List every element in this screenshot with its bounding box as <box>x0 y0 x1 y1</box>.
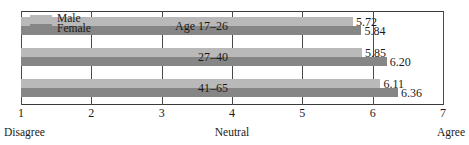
bar-male-group-2 <box>21 48 362 57</box>
tick-label-2: 2 <box>88 107 94 119</box>
category-label-2: 27–40 <box>198 51 228 63</box>
tick-label-6: 6 <box>370 107 376 119</box>
legend-label-female: Female <box>57 24 91 34</box>
tick-label-3: 3 <box>159 107 165 119</box>
category-label-3: 41–65 <box>198 82 228 94</box>
legend-swatch-male <box>30 15 52 24</box>
gridline-7 <box>443 11 444 105</box>
legend-labels: Male Female <box>57 14 91 33</box>
scale-anchor-disagree: Disagree <box>4 127 45 139</box>
bar-chart-figure: Age 17–2627–4041–65 5.725.845.856.206.11… <box>0 0 469 145</box>
tick-label-4: 4 <box>229 107 235 119</box>
tick-label-5: 5 <box>299 107 305 119</box>
bar-value-female-group-3: 6.36 <box>401 87 422 99</box>
scale-anchor-agree: Agree <box>437 127 465 139</box>
tick-label-1: 1 <box>18 107 24 119</box>
chart-title <box>0 0 469 4</box>
scale-anchor-neutral: Neutral <box>215 127 249 139</box>
legend: Male Female <box>30 14 91 33</box>
category-label-1: Age 17–26 <box>175 20 228 32</box>
legend-swatch-female <box>30 24 52 33</box>
bar-value-male-group-2: 5.85 <box>365 47 386 59</box>
bar-value-female-group-1: 5.84 <box>364 25 385 37</box>
bar-value-female-group-2: 6.20 <box>390 56 411 68</box>
tick-label-7: 7 <box>440 107 446 119</box>
legend-swatches <box>30 15 52 33</box>
